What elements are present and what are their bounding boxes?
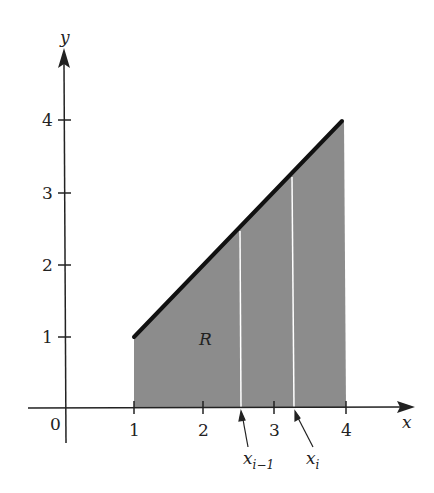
partition-label-left: xi−1 bbox=[243, 448, 274, 472]
x-tick-label-4: 4 bbox=[341, 420, 352, 440]
y-axis bbox=[64, 64, 66, 443]
x-tick-label-2: 2 bbox=[198, 420, 209, 440]
partition-line-left bbox=[240, 231, 241, 408]
y-axis-label: y bbox=[59, 27, 70, 47]
y-tick-label-2: 2 bbox=[42, 255, 53, 275]
y-tick-label-1: 1 bbox=[42, 327, 53, 347]
partition-label-right: xi bbox=[306, 448, 320, 472]
region-label: R bbox=[198, 329, 212, 349]
y-tick-label-4: 4 bbox=[42, 110, 53, 130]
x-axis bbox=[28, 407, 400, 408]
x-tick-label-1: 1 bbox=[129, 420, 140, 440]
region-diagram: y x 0 1 2 3 4 1 2 3 4 R xi−1 xi bbox=[0, 0, 434, 493]
y-tick-label-3: 3 bbox=[42, 183, 53, 203]
x-axis-label: x bbox=[402, 412, 412, 432]
x-tick-label-3: 3 bbox=[269, 420, 280, 440]
origin-label: 0 bbox=[50, 414, 61, 434]
